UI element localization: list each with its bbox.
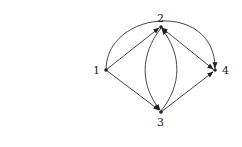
node-3 [159, 110, 163, 114]
graph-diagram: 1 2 3 4 [0, 0, 242, 147]
edge-3-4 [161, 72, 213, 112]
node-label-3: 3 [157, 116, 164, 129]
node-label-4: 4 [222, 64, 229, 77]
edges [106, 21, 215, 112]
node-2 [159, 25, 163, 29]
edge-3-2-right [161, 29, 177, 111]
edge-2-4 [162, 28, 213, 69]
nodes [104, 25, 217, 114]
node-1 [104, 68, 108, 72]
node-label-2: 2 [157, 12, 164, 25]
edge-1-3 [106, 70, 159, 110]
node-label-1: 1 [93, 64, 100, 77]
edge-1-2 [106, 28, 159, 70]
edge-2-3-left [145, 28, 161, 110]
node-4 [213, 68, 217, 72]
